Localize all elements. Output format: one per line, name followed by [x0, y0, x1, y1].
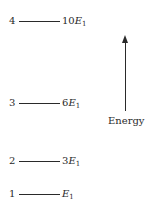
energy-subscript: 1 [76, 160, 80, 168]
energy-coefficient: 10 [62, 15, 75, 26]
level-2: 2 3E1 [0, 154, 100, 168]
level-1: 1 E1 [0, 187, 100, 201]
level-number: 4 [9, 14, 15, 28]
level-line [19, 161, 60, 162]
level-3: 3 6E1 [0, 96, 100, 110]
level-energy: 10E1 [62, 14, 87, 28]
energy-axis-label: Energy [108, 114, 145, 128]
level-line [19, 103, 60, 104]
energy-symbol: E [68, 155, 75, 166]
level-energy: E1 [62, 187, 74, 201]
level-number: 1 [9, 187, 15, 201]
level-energy: 6E1 [62, 96, 80, 110]
level-line [19, 194, 60, 195]
arrow-shaft [125, 41, 126, 111]
energy-subscript: 1 [76, 102, 80, 110]
level-4: 4 10E1 [0, 14, 100, 28]
energy-subscript: 1 [69, 193, 73, 201]
energy-symbol: E [68, 97, 75, 108]
level-energy: 3E1 [62, 154, 80, 168]
energy-arrow-icon [125, 35, 127, 111]
level-number: 3 [9, 96, 15, 110]
level-line [19, 21, 60, 22]
energy-subscript: 1 [82, 20, 86, 28]
energy-symbol: E [75, 15, 82, 26]
level-number: 2 [9, 154, 15, 168]
